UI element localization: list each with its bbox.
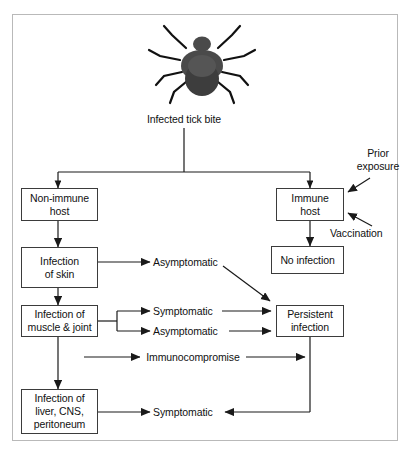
node-label: Infection of skin	[38, 255, 81, 281]
node-persistent-infection[interactable]: Persistent infection	[276, 305, 344, 337]
label-asymptomatic-muscle: Asymptomatic	[153, 325, 218, 338]
label-prior-exposure: Prior exposure	[352, 147, 404, 173]
diagram-canvas: Non-immune host Immune host Infection of…	[0, 0, 413, 453]
node-label: Non-immune host	[28, 192, 91, 218]
node-label: Infection of muscle & joint	[26, 308, 94, 334]
label-vaccination: Vaccination	[330, 227, 382, 240]
node-non-immune-host[interactable]: Non-immune host	[21, 188, 98, 221]
label-infected-tick-bite: Infected tick bite	[142, 113, 226, 126]
node-label: Infection of liver, CNS, peritoneum	[32, 392, 88, 431]
label-immunocompromise: Immunocompromise	[140, 351, 246, 364]
node-label: Immune host	[289, 192, 330, 218]
node-no-infection[interactable]: No infection	[271, 246, 344, 274]
label-symptomatic-liver: Symptomatic	[153, 406, 213, 419]
node-infection-of-skin[interactable]: Infection of skin	[21, 247, 98, 288]
node-label: No infection	[278, 254, 336, 267]
node-infection-muscle-joint[interactable]: Infection of muscle & joint	[21, 305, 98, 337]
node-immune-host[interactable]: Immune host	[276, 188, 344, 221]
node-infection-liver-cns-peritoneum[interactable]: Infection of liver, CNS, peritoneum	[21, 389, 98, 434]
label-asymptomatic-skin: Asymptomatic	[153, 256, 218, 269]
label-symptomatic-muscle: Symptomatic	[153, 305, 213, 318]
node-label: Persistent infection	[285, 308, 335, 334]
